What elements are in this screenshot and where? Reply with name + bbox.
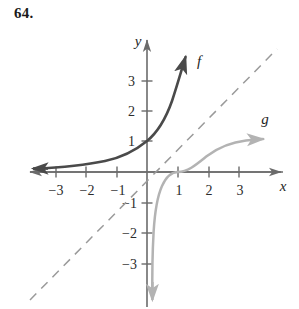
curve-label-f: f [197,53,203,69]
axes [30,40,283,307]
x-tick-labels: −3 −2 −1 1 2 3 [49,183,244,198]
x-tick-label-2: 2 [206,183,213,198]
y-tick-label-neg2: −2 [122,226,137,241]
x-tick-label-neg3: −3 [49,183,64,198]
x-tick-label-3: 3 [237,183,244,198]
curve-f [34,57,186,169]
exponential-log-figure: 64. [0,0,299,309]
y-tick-label-2: 2 [128,104,135,119]
y-tick-label-1: 1 [128,134,135,149]
y-tick-label-3: 3 [128,74,135,89]
y-tick-labels: 3 2 1 −1 −2 −3 [122,74,137,272]
problem-number: 64. [14,5,33,22]
x-axis-label: x [279,178,287,194]
x-tick-label-1: 1 [176,183,183,198]
x-tick-label-neg2: −2 [80,183,95,198]
curve-g [152,139,263,296]
graph-canvas: −3 −2 −1 1 2 3 3 2 1 −1 −2 −3 x y f g [0,0,299,309]
y-axis-label: y [133,33,142,49]
curve-label-g: g [261,111,269,127]
y-tick-label-neg3: −3 [122,257,137,272]
